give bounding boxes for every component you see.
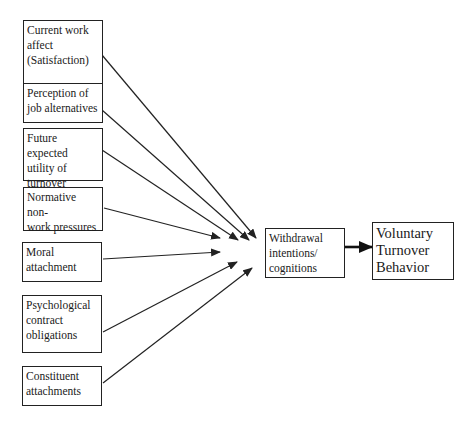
box-constituent-attachments: Constituent attachments — [22, 366, 102, 406]
box-moral-attachment: Moral attachment — [22, 242, 102, 282]
box-perception-job-alternatives: Perception of job alternatives — [23, 83, 103, 123]
arrow-moral-attachment — [103, 252, 220, 259]
box-normative-nonwork-pressures: Normative non- work pressures — [23, 187, 103, 231]
box-voluntary-turnover: Voluntary Turnover Behavior — [372, 222, 454, 280]
arrow-constituent-attachments — [103, 268, 252, 383]
arrow-psychological-contract — [103, 262, 237, 332]
box-current-work-affect: Current work affect (Satisfaction) — [23, 20, 103, 88]
arrow-future-expected-utility — [102, 150, 238, 240]
box-future-expected-utility: Future expected utility of turnover — [23, 128, 103, 181]
arrow-current-work-affect — [102, 55, 256, 238]
diagram-canvas: Current work affect (Satisfaction) Perce… — [0, 0, 472, 426]
box-psychological-contract: Psychological contract obligations — [22, 295, 102, 353]
arrow-normative-nonwork-pressures — [104, 208, 220, 238]
box-withdrawal-intentions: Withdrawal intentions/ cognitions — [265, 228, 345, 278]
arrow-perception-job-alternatives — [102, 110, 249, 240]
